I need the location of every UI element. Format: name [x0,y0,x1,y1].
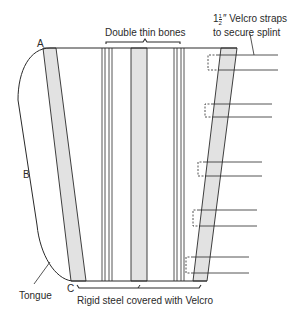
tongue-leader-line [34,262,50,284]
point-c-label: C [67,283,74,294]
right-steel-band [193,48,237,281]
rigid-steel-label: Rigid steel covered with Velcro [77,295,213,306]
strap-label: 112″ Velcro straps [213,13,287,26]
point-b-label: B [23,169,30,180]
tongue-label: Tongue [19,290,52,301]
thin-bones-left [102,48,112,281]
splint-diagram [0,0,294,313]
double-thin-bones-label: Double thin bones [105,27,186,38]
center-steel-band [131,48,147,281]
left-steel-band [43,48,86,281]
thin-bones-right [174,48,184,281]
strap-label-rest: ″ Velcro straps [223,13,287,24]
bones-bracket [106,39,180,44]
point-a-label: A [37,38,44,49]
strap-label-line2: to secure splint [213,27,280,38]
strap-label-fraction: 12 [219,13,222,26]
